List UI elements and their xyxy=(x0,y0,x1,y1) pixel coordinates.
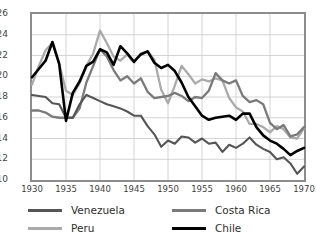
y-tick-12: 12 xyxy=(0,154,8,163)
plot-area xyxy=(30,12,306,182)
legend-item-costa-rica[interactable]: Costa Rica xyxy=(172,204,271,216)
y-tick-24: 24 xyxy=(0,30,8,39)
legend-label-chile: Chile xyxy=(215,222,241,234)
legend-swatch-chile xyxy=(172,227,206,230)
series-line-peru xyxy=(32,31,304,139)
line-chart: 262422201816141210 193019351940194519501… xyxy=(0,0,316,239)
legend: Venezuela Costa Rica Peru Chile xyxy=(0,203,316,239)
legend-swatch-peru xyxy=(28,227,62,230)
x-tick-1970: 1970 xyxy=(284,185,316,194)
y-tick-22: 22 xyxy=(0,51,8,60)
y-tick-18: 18 xyxy=(0,92,8,101)
legend-item-peru[interactable]: Peru xyxy=(28,222,94,234)
legend-label-peru: Peru xyxy=(71,222,94,234)
y-tick-26: 26 xyxy=(0,9,8,18)
legend-label-costa-rica: Costa Rica xyxy=(215,204,271,216)
legend-swatch-venezuela xyxy=(28,209,62,212)
series-line-chile xyxy=(32,42,304,155)
legend-item-chile[interactable]: Chile xyxy=(172,222,241,234)
y-tick-20: 20 xyxy=(0,71,8,80)
legend-item-venezuela[interactable]: Venezuela xyxy=(28,204,125,216)
series-lines xyxy=(32,14,304,180)
y-tick-14: 14 xyxy=(0,134,8,143)
legend-swatch-costa-rica xyxy=(172,209,206,212)
y-tick-10: 10 xyxy=(0,175,8,184)
legend-label-venezuela: Venezuela xyxy=(71,204,125,216)
y-tick-16: 16 xyxy=(0,113,8,122)
